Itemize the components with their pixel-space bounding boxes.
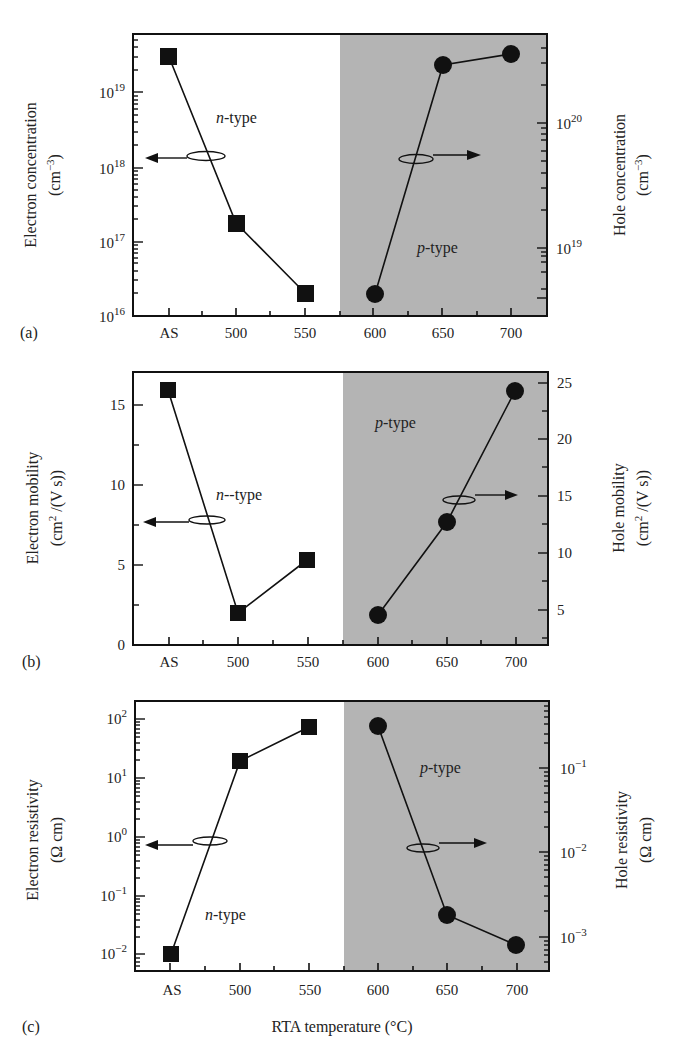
panel-c-label: (c) xyxy=(22,1018,40,1036)
x-tick-label: 700 xyxy=(505,654,528,670)
panel-c-shade xyxy=(344,701,549,971)
panel-b-n-type-label: n--type xyxy=(216,486,262,504)
x-tick-label: AS xyxy=(159,325,178,341)
panel-b-shade xyxy=(343,372,548,645)
panel-a-n-type-label: n-type xyxy=(216,109,257,127)
panel-a-electron-markers xyxy=(160,48,314,302)
x-axis-title: RTA temperature (°C) xyxy=(272,1018,413,1036)
panel-b-right-axis-unit: (cm2 /(V s)) xyxy=(632,470,652,546)
data-point-square xyxy=(160,382,176,398)
x-tick-label: 500 xyxy=(227,654,250,670)
right-tick-label: 15 xyxy=(557,488,572,504)
left-tick-label: 5 xyxy=(118,557,126,573)
right-tick-label: 5 xyxy=(557,602,565,618)
x-tick-label: 600 xyxy=(364,325,387,341)
panel-a-shade xyxy=(340,34,547,316)
right-tick-label: 1020 xyxy=(556,112,583,132)
panel-a-x-tick-labels: AS 500 550 600 650 700 xyxy=(159,325,522,341)
left-tick-label: 1019 xyxy=(99,81,126,101)
arrow-left-icon xyxy=(145,153,158,163)
panel-b-left-tick-labels: 0 5 10 15 xyxy=(110,397,125,653)
x-tick-label: 700 xyxy=(506,982,529,998)
data-point-circle xyxy=(434,56,452,74)
panel-c-left-ticks xyxy=(135,719,145,966)
left-tick-label: 101 xyxy=(107,766,128,786)
x-tick-label: 500 xyxy=(229,982,252,998)
x-tick-label: 550 xyxy=(299,982,322,998)
panel-a-left-arrow-annotation xyxy=(145,152,225,164)
data-point-circle xyxy=(506,382,524,400)
x-tick-label: 650 xyxy=(436,654,459,670)
x-tick-label: 650 xyxy=(436,982,459,998)
panel-c-left-axis-unit: (Ω cm) xyxy=(48,817,66,863)
right-tick-label: 10 xyxy=(557,545,572,561)
left-tick-label: 10−1 xyxy=(100,884,127,904)
data-point-square xyxy=(299,552,315,568)
data-point-circle xyxy=(438,906,456,924)
panel-a-right-tick-labels: 1019 1020 xyxy=(556,112,583,257)
x-tick-label: AS xyxy=(162,982,181,998)
panel-c-right-tick-labels: 10−1 10−2 10−3 xyxy=(560,757,587,946)
panel-b-x-tick-labels: AS 500 550 600 650 700 xyxy=(159,654,527,670)
data-point-circle xyxy=(366,285,384,303)
panel-c-left-axis-title: Electron resistivity xyxy=(24,779,42,900)
right-tick-label: 20 xyxy=(557,431,572,447)
arrow-left-icon xyxy=(143,517,156,527)
panel-b-left-ticks xyxy=(133,405,143,605)
x-tick-label: 600 xyxy=(367,982,390,998)
panel-a-right-axis-title: Hole concentration xyxy=(611,114,628,236)
panel-a-left-ticks xyxy=(133,40,143,316)
panel-a-label: (a) xyxy=(20,324,38,342)
panel-b-label: (b) xyxy=(22,653,41,671)
right-tick-label: 25 xyxy=(557,375,572,391)
x-tick-label: 550 xyxy=(294,325,317,341)
panel-a: AS 500 550 600 650 700 1016 1017 1018 10… xyxy=(20,34,652,342)
panel-c-x-tick-labels: AS 500 550 600 650 700 xyxy=(162,982,528,998)
x-tick-label: 500 xyxy=(225,325,248,341)
panel-b-right-axis-title: Hole mobility xyxy=(610,463,628,552)
panel-c-p-type-label: p-type xyxy=(419,759,461,777)
panel-c-electron-markers xyxy=(163,719,317,962)
data-point-circle xyxy=(438,513,456,531)
panel-a-electron-line xyxy=(169,57,305,293)
panel-a-left-axis-unit: (cm−3) xyxy=(44,154,64,196)
panel-b-left-axis-title: Electron mobility xyxy=(24,452,42,564)
panel-c: AS 500 550 600 650 700 102 101 100 10−1 … xyxy=(22,701,655,1036)
right-tick-label: 1019 xyxy=(556,237,583,257)
data-point-square xyxy=(228,215,245,232)
left-tick-label: 0 xyxy=(118,637,126,653)
panel-a-right-axis-unit: (cm−3) xyxy=(632,154,652,196)
left-tick-label: 1016 xyxy=(99,305,126,325)
arrow-left-icon xyxy=(145,840,158,850)
panel-b-right-tick-labels: 5 10 15 20 25 xyxy=(557,375,572,618)
x-tick-label: 600 xyxy=(367,654,390,670)
panel-c-right-axis-title: Hole resistivity xyxy=(613,791,631,889)
data-point-square xyxy=(163,946,179,962)
panel-c-left-arrow-annotation xyxy=(145,837,227,850)
right-tick-label: 10−2 xyxy=(560,841,587,861)
panel-b: AS 500 550 600 650 700 0 5 10 15 xyxy=(22,372,652,671)
panel-a-left-tick-labels: 1016 1017 1018 1019 xyxy=(99,81,126,325)
panel-b-p-type-label: p-type xyxy=(374,414,416,432)
x-tick-label: AS xyxy=(159,654,178,670)
left-tick-label: 15 xyxy=(110,397,125,413)
panel-c-left-tick-labels: 102 101 100 10−1 10−2 xyxy=(100,707,127,962)
x-tick-label: 700 xyxy=(500,325,523,341)
left-tick-label: 10−2 xyxy=(100,942,127,962)
panel-a-p-type-label: p-type xyxy=(416,239,458,257)
panel-c-n-type-label: n-type xyxy=(205,906,246,924)
left-tick-label: 102 xyxy=(107,707,128,727)
data-point-circle xyxy=(507,936,525,954)
right-tick-label: 10−3 xyxy=(560,926,587,946)
left-tick-label: 1017 xyxy=(99,231,126,251)
panel-b-left-arrow-annotation xyxy=(143,516,225,527)
panel-c-right-axis-unit: (Ω cm) xyxy=(637,817,655,863)
data-point-square xyxy=(232,753,248,769)
figure-canvas: AS 500 550 600 650 700 1016 1017 1018 10… xyxy=(0,0,684,1056)
data-point-square xyxy=(160,48,177,65)
data-point-circle xyxy=(369,606,387,624)
data-point-circle xyxy=(502,45,520,63)
left-tick-label: 100 xyxy=(107,825,128,845)
panel-a-left-axis-title: Electron concentration xyxy=(22,102,39,247)
x-tick-label: 650 xyxy=(432,325,455,341)
